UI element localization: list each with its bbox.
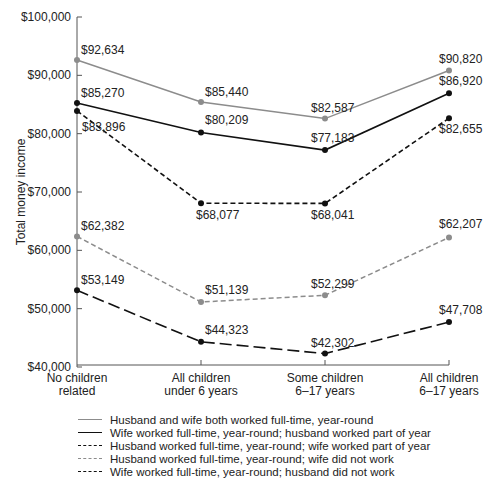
series-line [77,236,449,302]
data-value-label: $68,041 [311,208,355,222]
legend-label: Wife worked full-time, year-round; husba… [110,427,431,439]
data-point [74,100,80,106]
data-point [322,116,328,122]
data-point [322,351,328,357]
data-point [446,234,452,240]
x-category-label: Some children [287,371,364,385]
series-line [77,290,449,353]
data-value-label: $77,183 [311,131,355,145]
x-category-label: All children [420,371,479,385]
data-value-label: $82,587 [311,101,355,115]
data-value-label: $62,382 [81,219,125,233]
data-point [198,299,204,305]
data-point [198,200,204,206]
legend-label: Husband worked full-time, year-round; wi… [110,440,430,452]
x-category-label: related [59,384,96,398]
data-point [446,319,452,325]
legend-item: Husband worked full-time, year-round; wi… [78,439,431,452]
x-category-label: under 6 years [164,384,237,398]
data-point [446,115,452,121]
data-value-label: $80,209 [205,113,249,127]
data-point [322,292,328,298]
data-point [322,200,328,206]
y-tick-label: $90,000 [28,68,72,82]
data-labels: $92,634$85,440$82,587$90,820$85,270$80,2… [81,43,483,350]
data-value-label: $62,207 [439,217,483,231]
legend-line-swatch-icon [78,432,102,433]
data-point [322,147,328,153]
data-value-label: $90,820 [439,52,483,66]
x-category-label: All children [172,371,231,385]
data-value-label: $51,139 [205,283,249,297]
data-value-label: $83,896 [82,120,126,134]
data-value-label: $42,302 [311,336,355,350]
data-value-label: $86,920 [439,74,483,88]
data-value-label: $53,149 [81,273,125,287]
data-value-label: $85,440 [205,85,249,99]
data-value-label: $47,708 [439,303,483,317]
axes: $40,000$50,000$60,000$70,000$80,000$90,0… [14,10,479,398]
legend-label: Husband and wife both worked full-time, … [110,414,373,426]
data-value-label: $85,270 [81,86,125,100]
legend-line-swatch-icon [78,471,102,472]
legend-line-swatch-icon [78,445,102,446]
legend-item: Husband and wife both worked full-time, … [78,413,431,426]
legend: Husband and wife both worked full-time, … [78,413,431,478]
series-lines [74,57,452,357]
y-axis-label: Total money income [14,138,28,245]
legend-line-swatch-icon [78,419,102,420]
legend-line-swatch-icon [78,458,102,459]
data-point [198,339,204,345]
legend-item: Wife worked full-time, year-round; husba… [78,465,431,478]
x-category-label: 6–17 years [295,384,354,398]
data-point [74,287,80,293]
legend-item: Husband worked full-time, year-round; wi… [78,452,431,465]
legend-label: Husband worked full-time, year-round; wi… [110,453,394,465]
y-tick-label: $70,000 [28,185,72,199]
data-point [446,90,452,96]
y-tick-label: $60,000 [28,243,72,257]
data-point [74,233,80,239]
series-line [77,93,449,150]
legend-item: Wife worked full-time, year-round; husba… [78,426,431,439]
data-point [198,129,204,135]
data-value-label: $44,323 [205,323,249,337]
series-line [77,111,449,203]
x-category-label: 6–17 years [419,384,478,398]
y-tick-label: $80,000 [28,127,72,141]
legend-label: Wife worked full-time, year-round; husba… [110,466,394,478]
data-value-label: $68,077 [196,208,240,222]
data-point [74,108,80,114]
x-category-label: No children [47,371,108,385]
y-tick-label: $50,000 [28,302,72,316]
data-point [446,68,452,74]
series-line [77,60,449,119]
y-tick-label: $100,000 [21,10,71,24]
data-point [198,99,204,105]
data-value-label: $92,634 [81,43,125,57]
data-value-label: $52,299 [311,277,355,291]
data-point [74,57,80,63]
data-value-label: $82,655 [439,122,483,136]
